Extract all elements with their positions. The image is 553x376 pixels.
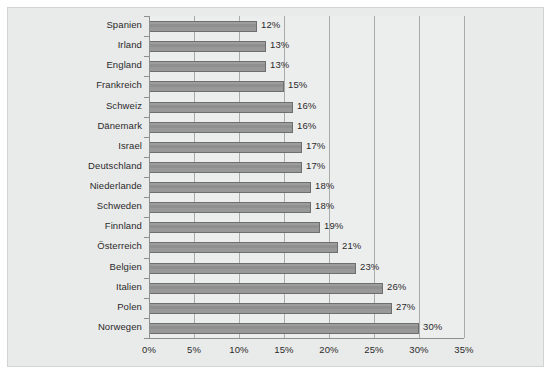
- x-tick-label-20%: 20%: [319, 344, 338, 355]
- y-axis-category-labels: SpanienIrlandEnglandFrankreichSchweizDän…: [0, 16, 142, 338]
- bar-value-label: 15%: [288, 79, 307, 90]
- bar-chart-figure: SpanienIrlandEnglandFrankreichSchweizDän…: [0, 0, 553, 376]
- category-label-italien: Italien: [2, 281, 142, 292]
- bar-value-label: 12%: [261, 19, 280, 30]
- bar-value-label: 19%: [324, 220, 343, 231]
- category-label-polen: Polen: [2, 301, 142, 312]
- bar-row: [149, 16, 464, 37]
- y-tick: [144, 217, 149, 218]
- bar-dänemark[interactable]: [149, 122, 293, 133]
- x-tick-label-30%: 30%: [409, 344, 428, 355]
- bar-value-label: 16%: [297, 120, 316, 131]
- y-tick: [144, 338, 149, 339]
- y-tick: [144, 76, 149, 77]
- category-label-belgien: Belgien: [2, 261, 142, 272]
- gridline-35%: [464, 16, 465, 338]
- bar-row: [149, 197, 464, 218]
- bar-row: [149, 318, 464, 339]
- bar-value-label: 13%: [270, 59, 289, 70]
- bar-niederlande[interactable]: [149, 182, 311, 193]
- bar-belgien[interactable]: [149, 263, 356, 274]
- category-label-norwegen: Norwegen: [2, 321, 142, 332]
- bar-row: [149, 56, 464, 77]
- x-tick-label-5%: 5%: [187, 344, 201, 355]
- category-label-spanien: Spanien: [2, 19, 142, 30]
- bar-norwegen[interactable]: [149, 323, 419, 334]
- bar-value-label: 23%: [360, 261, 379, 272]
- x-tick-label-0%: 0%: [142, 344, 156, 355]
- y-tick: [144, 298, 149, 299]
- x-tick-label-15%: 15%: [274, 344, 293, 355]
- y-tick: [144, 16, 149, 17]
- category-label-england: England: [2, 59, 142, 70]
- y-axis-spine: [149, 16, 150, 338]
- bar-value-label: 18%: [315, 200, 334, 211]
- bar-value-label: 30%: [423, 321, 442, 332]
- x-tick-label-25%: 25%: [364, 344, 383, 355]
- x-tick-label-10%: 10%: [229, 344, 248, 355]
- bar-spanien[interactable]: [149, 21, 257, 32]
- category-label-finnland: Finnland: [2, 220, 142, 231]
- y-tick: [144, 137, 149, 138]
- category-label-irland: Irland: [2, 39, 142, 50]
- bar-row: [149, 177, 464, 198]
- category-label-deutschland: Deutschland: [2, 160, 142, 171]
- bar-row: [149, 36, 464, 57]
- bar-irland[interactable]: [149, 41, 266, 52]
- y-tick: [144, 197, 149, 198]
- bar-row: [149, 298, 464, 319]
- y-tick: [144, 36, 149, 37]
- plot-area: [149, 16, 464, 338]
- bar-value-label: 17%: [306, 140, 325, 151]
- y-tick: [144, 278, 149, 279]
- bar-row: [149, 217, 464, 238]
- y-tick: [144, 258, 149, 259]
- x-axis-line: [149, 338, 464, 339]
- bar-value-label: 16%: [297, 100, 316, 111]
- category-label-österreich: Österreich: [2, 240, 142, 251]
- bar-schweiz[interactable]: [149, 102, 293, 113]
- bar-value-label: 17%: [306, 160, 325, 171]
- bar-value-label: 18%: [315, 180, 334, 191]
- category-label-schweiz: Schweiz: [2, 100, 142, 111]
- category-label-frankreich: Frankreich: [2, 79, 142, 90]
- bar-frankreich[interactable]: [149, 81, 284, 92]
- y-tick: [144, 97, 149, 98]
- category-label-dänemark: Dänemark: [2, 120, 142, 131]
- y-tick: [144, 237, 149, 238]
- y-tick: [144, 157, 149, 158]
- bar-row: [149, 258, 464, 279]
- bar-polen[interactable]: [149, 303, 392, 314]
- category-label-schweden: Schweden: [2, 200, 142, 211]
- x-tick-label-35%: 35%: [454, 344, 473, 355]
- category-label-israel: Israel: [2, 140, 142, 151]
- bar-italien[interactable]: [149, 283, 383, 294]
- bar-schweden[interactable]: [149, 202, 311, 213]
- y-tick: [144, 117, 149, 118]
- bar-row: [149, 237, 464, 258]
- category-label-niederlande: Niederlande: [2, 180, 142, 191]
- bar-österreich[interactable]: [149, 242, 338, 253]
- bar-row: [149, 278, 464, 299]
- y-tick: [144, 318, 149, 319]
- bar-israel[interactable]: [149, 142, 302, 153]
- bar-value-label: 13%: [270, 39, 289, 50]
- bar-deutschland[interactable]: [149, 162, 302, 173]
- bar-value-label: 26%: [387, 281, 406, 292]
- y-tick: [144, 177, 149, 178]
- bar-england[interactable]: [149, 61, 266, 72]
- y-tick: [144, 56, 149, 57]
- bar-value-label: 27%: [396, 301, 415, 312]
- bar-value-label: 21%: [342, 240, 361, 251]
- bar-finnland[interactable]: [149, 222, 320, 233]
